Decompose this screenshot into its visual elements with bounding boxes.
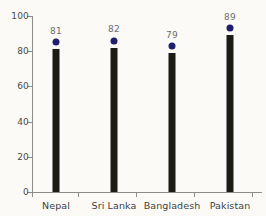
x-tick-boundary-3 — [194, 192, 195, 197]
bar-pakistan — [227, 35, 234, 192]
value-label-pakistan: 89 — [224, 12, 236, 22]
plot-area: 0 20 40 60 80 100 81 Nepa — [32, 16, 262, 192]
y-tick-label-40: 40 — [17, 117, 29, 127]
y-axis-line — [32, 16, 33, 192]
y-tick-label-100: 100 — [11, 11, 29, 21]
y-tick-label-0: 0 — [23, 187, 29, 197]
y-tick-label-20: 20 — [17, 152, 29, 162]
marker-dot-sri-lanka — [111, 37, 118, 44]
y-tick-label-80: 80 — [17, 46, 29, 56]
bar-sri-lanka — [111, 48, 118, 192]
value-label-bangladesh: 79 — [166, 30, 178, 40]
bar-bangladesh — [169, 53, 176, 192]
x-axis-line — [32, 192, 262, 193]
y-tick-label-60: 60 — [17, 81, 29, 91]
marker-dot-nepal — [53, 39, 60, 46]
category-label-pakistan: Pakistan — [210, 200, 251, 211]
x-tick-boundary-0 — [32, 192, 33, 197]
x-tick-boundary-4 — [252, 192, 253, 197]
value-label-sri-lanka: 82 — [108, 24, 120, 34]
category-label-nepal: Nepal — [42, 200, 70, 211]
marker-dot-pakistan — [227, 25, 234, 32]
x-tick-boundary-2 — [136, 192, 137, 197]
chart-root: 0 20 40 60 80 100 81 Nepa — [0, 0, 266, 216]
x-tick-boundary-1 — [78, 192, 79, 197]
value-label-nepal: 81 — [50, 26, 62, 36]
category-label-bangladesh: Bangladesh — [144, 200, 201, 211]
bar-nepal — [53, 49, 60, 192]
marker-dot-bangladesh — [169, 42, 176, 49]
category-label-sri-lanka: Sri Lanka — [92, 200, 137, 211]
